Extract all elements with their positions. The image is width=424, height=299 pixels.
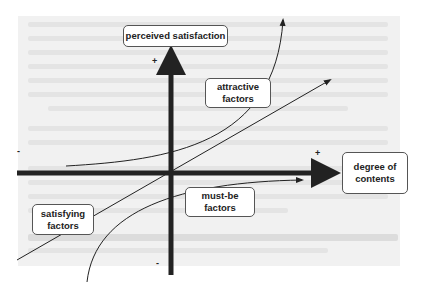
y-axis-label-box: perceived satisfaction (123, 25, 228, 47)
satisfying-factors-label-1: satisfying (41, 208, 85, 220)
satisfying-factors-label-2: factors (47, 220, 79, 232)
y-plus-sign: + (152, 56, 157, 66)
y-minus-sign: - (156, 258, 159, 268)
x-axis-label-box: degree of contents (342, 152, 408, 194)
attractive-factors-label-2: factors (222, 93, 254, 105)
x-minus-sign: - (17, 146, 20, 156)
must-be-factors-label-1: must-be (202, 190, 239, 202)
x-axis-label-1: degree of (354, 161, 397, 173)
satisfying-factors-box: satisfying factors (32, 204, 94, 235)
attractive-factors-label-1: attractive (217, 81, 259, 93)
x-axis-label-2: contents (355, 173, 395, 185)
must-be-factors-box: must-be factors (185, 187, 255, 217)
x-plus-sign: + (315, 148, 320, 158)
y-axis-label: perceived satisfaction (126, 30, 226, 42)
must-be-factors-label-2: factors (204, 202, 236, 214)
attractive-factors-box: attractive factors (205, 78, 271, 108)
